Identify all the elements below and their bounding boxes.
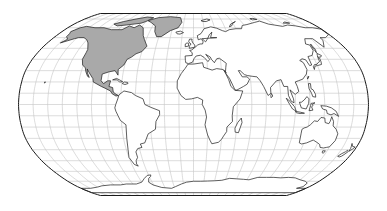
- region-north-america: [60, 25, 147, 96]
- region-new-zealand-south: [338, 150, 349, 157]
- region-borneo: [299, 97, 309, 109]
- region-madagascar: [235, 118, 242, 133]
- world-map: [0, 0, 387, 211]
- region-java: [295, 111, 304, 113]
- region-tasmania: [322, 151, 325, 154]
- region-canadian-arctic-islands: [114, 17, 154, 26]
- region-new-guinea: [321, 106, 339, 117]
- region-hokkaido: [317, 53, 322, 57]
- region-taiwan: [308, 76, 309, 79]
- region-great-britain: [189, 39, 195, 48]
- map-canvas: [0, 0, 387, 211]
- region-south-america: [115, 91, 160, 166]
- region-cuba: [113, 78, 123, 82]
- region-antarctica: [81, 175, 307, 193]
- region-sri-lanka: [271, 93, 273, 97]
- region-new-siberian-is: [283, 22, 290, 23]
- region-australia: [299, 117, 338, 148]
- region-ireland: [185, 43, 188, 47]
- region-hispaniola: [122, 82, 128, 84]
